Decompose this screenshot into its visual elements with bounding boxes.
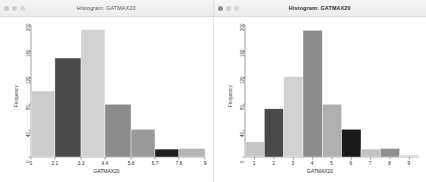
histogram-bar <box>245 142 264 157</box>
histogram-bar <box>155 149 179 157</box>
y-axis-tick-label: 200 <box>26 23 31 31</box>
histogram-svg <box>214 17 426 182</box>
close-icon[interactable] <box>4 6 9 11</box>
y-axis-tick-label: 120 <box>26 76 31 84</box>
y-axis-tick-label: 40 <box>240 131 245 136</box>
x-axis-label: GATMAX20 <box>214 168 426 174</box>
histogram-bar <box>361 149 380 157</box>
window-left[interactable]: Histogram: GATMAX20 0408012016020012.13.… <box>0 0 214 182</box>
histogram-bar <box>341 129 360 157</box>
minimize-icon[interactable] <box>226 6 231 11</box>
window-title-right: Histogram: GATMAX20 <box>214 5 426 11</box>
y-axis-tick-label: 0 <box>240 160 245 163</box>
x-axis-tick-label: 9 <box>407 161 410 166</box>
histogram-plot-right: 04080120160200123456789FrequencyGATMAX20 <box>214 17 426 182</box>
y-axis-tick-label: 160 <box>240 50 245 58</box>
histogram-bar <box>179 148 205 157</box>
histogram-plot-left: 0408012016020012.13.34.45.66.77.89Freque… <box>0 17 213 182</box>
histogram-bar <box>55 58 81 157</box>
y-axis-tick-label: 80 <box>26 105 31 110</box>
x-axis-tick-label: 5.6 <box>128 161 135 166</box>
window-right[interactable]: Histogram: GATMAX20 04080120160200123456… <box>214 0 426 182</box>
x-axis-tick-label: 8 <box>388 161 391 166</box>
x-axis-tick-label: 1 <box>253 161 256 166</box>
histogram-svg <box>0 17 213 182</box>
y-axis-tick-label: 40 <box>26 131 31 136</box>
histogram-bar <box>81 30 105 157</box>
minimize-icon[interactable] <box>12 6 17 11</box>
titlebar-left[interactable]: Histogram: GATMAX20 <box>0 0 213 17</box>
window-title-left: Histogram: GATMAX20 <box>0 5 213 11</box>
y-axis-tick-label: 80 <box>240 105 245 110</box>
x-axis-tick-label: 1 <box>30 161 33 166</box>
histogram-bar <box>303 30 322 157</box>
y-axis-label: Frequency <box>228 85 233 107</box>
close-icon[interactable] <box>218 6 223 11</box>
traffic-lights-right <box>218 0 239 16</box>
histogram-bar <box>264 109 283 157</box>
x-axis-tick-label: 6.7 <box>152 161 159 166</box>
x-axis-tick-label: 6 <box>349 161 352 166</box>
y-axis-label: Frequency <box>14 85 19 107</box>
traffic-lights-left <box>4 0 25 16</box>
histogram-bar <box>380 148 399 157</box>
x-axis-tick-label: 7 <box>369 161 372 166</box>
x-axis-tick-label: 4 <box>311 161 314 166</box>
x-axis-tick-label: 5 <box>330 161 333 166</box>
histogram-bar <box>283 76 302 157</box>
y-axis-tick-label: 200 <box>240 23 245 31</box>
zoom-icon[interactable] <box>20 6 25 11</box>
histogram-bar <box>131 129 155 157</box>
titlebar-right[interactable]: Histogram: GATMAX20 <box>214 0 426 17</box>
x-axis-tick-label: 2.1 <box>52 161 59 166</box>
histogram-bar <box>105 104 131 157</box>
y-axis-tick-label: 160 <box>26 50 31 58</box>
x-axis-tick-label: 2 <box>272 161 275 166</box>
x-axis-tick-label: 3 <box>291 161 294 166</box>
histogram-bar <box>399 155 418 157</box>
x-axis-tick-label: 4.4 <box>102 161 109 166</box>
x-axis-tick-label: 7.8 <box>176 161 183 166</box>
y-axis-tick-label: 120 <box>240 76 245 84</box>
histogram-bar <box>322 104 341 157</box>
two-window-screen: Histogram: GATMAX20 0408012016020012.13.… <box>0 0 426 182</box>
zoom-icon[interactable] <box>234 6 239 11</box>
x-axis-label: GATMAX20 <box>0 168 213 174</box>
x-axis-tick-label: 9 <box>204 161 207 166</box>
histogram-bar <box>31 91 55 157</box>
x-axis-tick-label: 3.3 <box>78 161 85 166</box>
